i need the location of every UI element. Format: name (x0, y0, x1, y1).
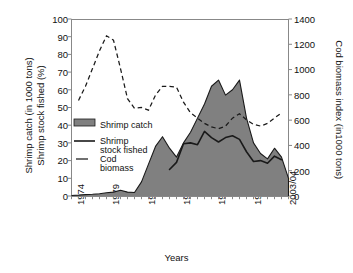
series-cod-biomass-line (79, 36, 282, 129)
y-axis-left-ticks (68, 19, 72, 196)
legend-marker-shrimp-catch (74, 119, 95, 126)
series-shrimp-catch-area (72, 80, 289, 196)
chart-figure: Shrimp catch (in 1000 tons) Shrimp stock… (0, 0, 353, 273)
plot-canvas (0, 0, 353, 273)
y-axis-right-ticks (289, 19, 293, 196)
